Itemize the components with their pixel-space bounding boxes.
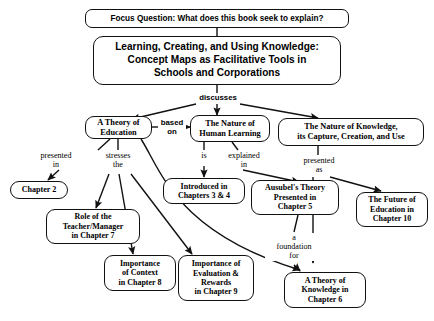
label-presented-in: presented in [28, 151, 84, 169]
label-presented-as: presented as [291, 156, 347, 174]
link-foundation-theory-knowledge [294, 265, 300, 271]
title-box: Learning, Creating, and Using Knowledge:… [93, 36, 341, 85]
link-human-learning-explained-in [232, 142, 238, 150]
node-importance-of-context: Importance of Context in Chapter 8 [104, 255, 176, 291]
node-role-of-teacher: Role of the Teacher/Manager in Chapter 7 [46, 209, 140, 244]
concept-map-canvas: Focus Question: What does this book seek… [0, 0, 434, 321]
link-theory-education-presented-in [98, 139, 110, 150]
label-discusses: discusses [190, 94, 246, 103]
node-future-of-education: The Future of Education in Chapter 10 [356, 192, 428, 227]
node-nature-human-learning: The Nature of Human Learning [190, 115, 270, 142]
link-presented-in-chapter2 [48, 170, 59, 180]
label-is: is [190, 151, 218, 160]
node-ausubel-theory: Ausubel's Theory Presented in Chapter 5 [251, 180, 339, 215]
node-introduced-in-chapters: Introduced in Chapters 3 & 4 [163, 178, 245, 204]
label-a-foundation-for: a foundation for [265, 233, 323, 261]
label-based-on: based on [158, 119, 186, 137]
link-stresses-role-teacher [96, 174, 109, 208]
link-ausubel-foundation-for [294, 215, 298, 232]
label-explained-in: explained in [217, 151, 271, 169]
focus-question-box: Focus Question: What does this book seek… [85, 9, 349, 28]
node-chapter-2: Chapter 2 [10, 181, 68, 199]
node-importance-of-evaluation: Importance of Evaluation & Rewards in Ch… [178, 255, 254, 301]
label-stresses-the: stresses the [92, 151, 144, 169]
node-nature-of-knowledge: The Nature of Knowledge, its Capture, Cr… [278, 118, 424, 146]
node-theory-of-education: A Theory of Education [85, 116, 152, 139]
node-theory-of-knowledge: A Theory of Knowledge in Chapter 6 [284, 272, 366, 308]
